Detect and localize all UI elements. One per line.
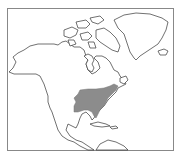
distribution-map: [0, 0, 181, 156]
map-svg: [0, 0, 181, 156]
hispaniola: [110, 126, 118, 129]
